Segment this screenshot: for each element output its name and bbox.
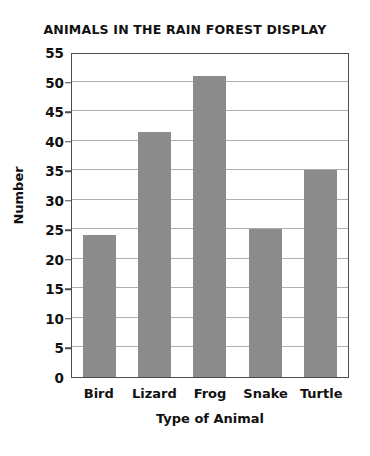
x-tick-label-frog: Frog	[182, 386, 237, 401]
chart-title: ANIMALS IN THE RAIN FOREST DISPLAY	[0, 22, 370, 37]
y-tick-label: 15	[0, 281, 64, 297]
bars-layer	[72, 54, 348, 377]
x-axis-tick-labels: BirdLizardFrogSnakeTurtle	[71, 386, 349, 401]
bar-slot	[72, 54, 127, 377]
bar-slot	[182, 54, 237, 377]
x-tick-label-snake: Snake	[238, 386, 293, 401]
x-tick-label-turtle: Turtle	[294, 386, 349, 401]
x-tick-label-lizard: Lizard	[127, 386, 182, 401]
bar-turtle	[304, 170, 337, 377]
bar-slot	[238, 54, 293, 377]
bar-lizard	[138, 132, 171, 377]
bar-bird	[83, 235, 116, 377]
bar-slot	[127, 54, 182, 377]
bar-slot	[293, 54, 348, 377]
bar-snake	[249, 229, 282, 377]
y-tick-label: 55	[0, 45, 64, 61]
plot-area	[71, 53, 349, 378]
y-tick-label: 5	[0, 340, 64, 356]
y-tick-label: 10	[0, 311, 64, 327]
y-tick-label: 20	[0, 252, 64, 268]
x-axis-title: Type of Animal	[71, 411, 349, 426]
y-tick-label: 45	[0, 104, 64, 120]
bar-chart-figure: ANIMALS IN THE RAIN FOREST DISPLAY 05101…	[0, 0, 370, 456]
x-tick-label-bird: Bird	[71, 386, 126, 401]
y-tick-label: 50	[0, 75, 64, 91]
y-axis-title: Number	[11, 141, 26, 251]
bar-frog	[193, 76, 226, 377]
y-tick-label: 0	[0, 370, 64, 386]
